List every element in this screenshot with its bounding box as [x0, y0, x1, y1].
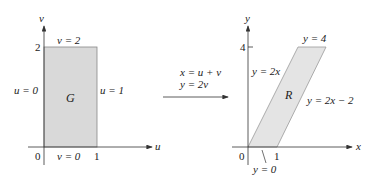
region-label-r: R: [284, 88, 293, 102]
y-axis-label: y: [244, 12, 250, 24]
tick-y-4-label: 4: [240, 41, 246, 53]
boundary-right: u = 1: [100, 84, 124, 96]
x-axis-label: x: [355, 140, 361, 152]
transform-eq-x: x = u + v: [179, 66, 221, 78]
transform-eq-y: y = 2v: [179, 78, 208, 90]
leader-y0: [262, 150, 266, 163]
tick-u-1: 1: [94, 150, 100, 162]
right-diagram: y x 4 0 1 y = 4 y = 2x y = 2x − 2 y = 0 …: [232, 12, 361, 175]
boundary-bottom-right: y = 0: [252, 163, 277, 175]
origin-label-right: 0: [239, 150, 245, 162]
transformation-diagram: v u 2 0 1 v = 2 v = 0 u = 0 u = 1 G x = …: [0, 0, 376, 178]
tick-x-1: 1: [274, 150, 280, 162]
boundary-left: u = 0: [14, 84, 38, 96]
left-diagram: v u 2 0 1 v = 2 v = 0 u = 0 u = 1 G: [14, 12, 161, 165]
boundary-bottom: v = 0: [57, 150, 81, 162]
tick-v-2: 2: [35, 41, 41, 53]
boundary-top-right: y = 4: [302, 32, 327, 44]
transformation: x = u + v y = 2v: [163, 66, 228, 97]
origin-label: 0: [35, 150, 41, 162]
boundary-left-right: y = 2x: [251, 65, 280, 77]
boundary-right-right: y = 2x − 2: [306, 94, 354, 106]
region-label-g: G: [66, 91, 75, 105]
v-axis-label: v: [39, 12, 44, 24]
u-axis-label: u: [155, 140, 161, 152]
boundary-top: v = 2: [57, 34, 81, 46]
